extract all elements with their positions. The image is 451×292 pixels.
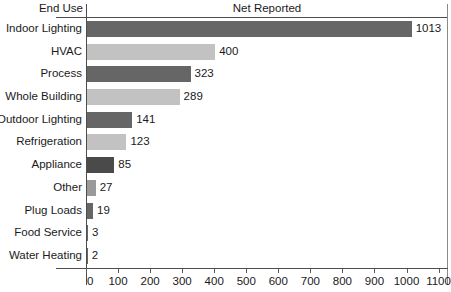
bar-category-label: Refrigeration	[16, 133, 82, 150]
bar-row: Food Service3	[0, 222, 451, 245]
x-axis-tick-label: 0	[87, 273, 93, 289]
bar	[87, 66, 191, 82]
bar-row: Appliance85	[0, 154, 451, 177]
bar-chart: End Use Net Reported Indoor Lighting1013…	[0, 0, 451, 292]
bar	[87, 203, 93, 219]
bar	[87, 134, 126, 150]
chart-header: End Use Net Reported	[0, 0, 451, 18]
bar-row: Indoor Lighting1013	[0, 18, 451, 41]
x-axis-tick-label: 1000	[394, 273, 420, 289]
bar-row: Plug Loads19	[0, 200, 451, 223]
bar-category-label: Plug Loads	[24, 202, 82, 219]
x-axis: 010020030040050060070080090010001100	[0, 269, 451, 292]
x-axis-tick-label: 500	[237, 273, 256, 289]
bar	[87, 44, 215, 60]
bar	[87, 112, 132, 128]
bar-value-label: 3	[92, 224, 98, 241]
category-column-header: End Use	[39, 0, 83, 16]
bar-category-label: Indoor Lighting	[6, 20, 82, 37]
bar-value-label: 400	[219, 43, 238, 60]
bar-category-label: Whole Building	[5, 88, 82, 105]
bar-value-label: 27	[100, 179, 113, 196]
bar	[87, 157, 114, 173]
bar-row: Refrigeration123	[0, 131, 451, 154]
value-column-header: Net Reported	[86, 0, 448, 16]
bar-row: Whole Building289	[0, 86, 451, 109]
bar-row: Process323	[0, 63, 451, 86]
bar-category-label: Process	[40, 65, 82, 82]
bar-value-label: 289	[184, 88, 203, 105]
bar	[87, 180, 96, 196]
bar-category-label: HVAC	[51, 43, 82, 60]
bar-category-label: Food Service	[14, 224, 82, 241]
x-axis-tick-label: 700	[301, 273, 320, 289]
bar-value-label: 85	[118, 156, 131, 173]
bar-category-label: Appliance	[31, 156, 82, 173]
bar-rows: Indoor Lighting1013HVAC400Process323Whol…	[0, 18, 451, 268]
bar-value-label: 2	[92, 247, 98, 264]
bar-value-label: 1013	[416, 20, 442, 37]
bar	[87, 248, 88, 264]
bar-row: Water Heating2	[0, 245, 451, 268]
bar-value-label: 19	[97, 202, 110, 219]
bar	[87, 89, 180, 105]
x-axis-tick-label: 900	[365, 273, 384, 289]
x-axis-tick-label: 100	[108, 273, 127, 289]
x-axis-tick-label: 300	[173, 273, 192, 289]
bar-category-label: Outdoor Lighting	[0, 111, 82, 128]
bar-value-label: 123	[130, 133, 149, 150]
bar-value-label: 141	[136, 111, 155, 128]
bar-row: HVAC400	[0, 41, 451, 64]
bar-row: Other27	[0, 177, 451, 200]
bar-category-label: Other	[53, 179, 82, 196]
x-axis-tick-label: 1100	[426, 273, 451, 289]
x-axis-tick-label: 400	[205, 273, 224, 289]
x-axis-tick-label: 200	[141, 273, 160, 289]
x-axis-tick-label: 600	[269, 273, 288, 289]
bar	[87, 21, 412, 37]
bar	[87, 225, 88, 241]
bar-row: Outdoor Lighting141	[0, 109, 451, 132]
bar-value-label: 323	[195, 65, 214, 82]
x-axis-tick-label: 800	[333, 273, 352, 289]
bar-category-label: Water Heating	[9, 247, 82, 264]
